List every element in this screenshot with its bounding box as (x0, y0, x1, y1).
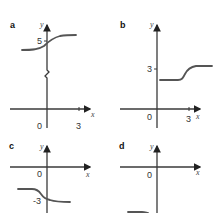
origin-label: 0 (147, 112, 152, 122)
panel-d: d y 0 x (119, 141, 200, 213)
y-axis-label: y (39, 142, 44, 151)
panel-c: c y 0 x -3 (9, 141, 90, 213)
curve-c (18, 189, 70, 202)
curve-d (128, 212, 148, 213)
x-axis-label: x (195, 168, 200, 177)
panel-label-b: b (120, 20, 126, 30)
curve-a (22, 35, 76, 50)
panel-label-c: c (9, 141, 14, 151)
y-axis-label: y (39, 20, 44, 29)
graphs-figure: a y 5 0 3 x b y 3 0 3 x c y 0 x -3 (0, 0, 217, 213)
y-tick-label: 3 (147, 64, 152, 74)
origin-label: 0 (147, 170, 152, 180)
x-tick-label: 3 (186, 114, 191, 124)
origin-label: 0 (37, 121, 42, 131)
panel-label-a: a (10, 20, 16, 30)
axis-break-icon (45, 66, 49, 82)
y-tick-label: -3 (33, 196, 41, 206)
x-axis-label: x (90, 110, 95, 119)
panel-b: b y 3 0 3 x (120, 20, 212, 128)
y-axis-label: y (149, 20, 154, 29)
panel-label-d: d (119, 141, 125, 151)
origin-label: 0 (37, 169, 42, 179)
curve-b (160, 66, 212, 80)
y-tick-label: 5 (37, 36, 42, 46)
x-axis-label: x (85, 170, 90, 179)
x-axis-label: x (195, 112, 200, 121)
x-tick-label: 3 (76, 121, 81, 131)
y-axis-label: y (149, 142, 154, 151)
panel-a: a y 5 0 3 x (10, 20, 95, 131)
